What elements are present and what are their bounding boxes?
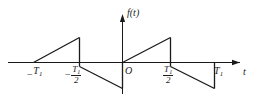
tick-label-T1-over-2: T12 — [163, 62, 173, 83]
x-axis-arrowhead — [232, 60, 240, 65]
fraction-neg-T1-over-2: T12 — [71, 65, 81, 86]
tick-label-T1-base: T — [214, 65, 220, 76]
y-axis-label: f(t) — [127, 8, 139, 18]
figure-canvas: −T1 −T12 O T12 T1 t f(t) — [0, 0, 265, 102]
tick-label-T1: T1 — [214, 66, 223, 78]
fraction-numerator-subscript: 1 — [169, 69, 172, 75]
fraction-denominator: 2 — [71, 76, 81, 86]
fraction-numerator-subscript: 1 — [77, 69, 80, 75]
tick-label-neg-T1: −T1 — [27, 66, 42, 78]
tick-label-neg-T1-over-2: −T12 — [65, 62, 81, 83]
tick-label-T1-subscript: 1 — [220, 70, 223, 77]
tick-label-neg-T1-base: T — [33, 65, 39, 76]
x-axis-label: t — [243, 67, 246, 77]
minus-sign: − — [65, 70, 71, 80]
fraction-T1-over-2: T12 — [163, 65, 173, 86]
origin-label: O — [125, 66, 132, 76]
y-axis-arrowhead — [120, 14, 125, 22]
x-axis — [8, 60, 240, 65]
tick-label-neg-T1-subscript: 1 — [39, 70, 42, 77]
fraction-denominator: 2 — [163, 76, 173, 86]
minus-sign: − — [27, 70, 33, 80]
